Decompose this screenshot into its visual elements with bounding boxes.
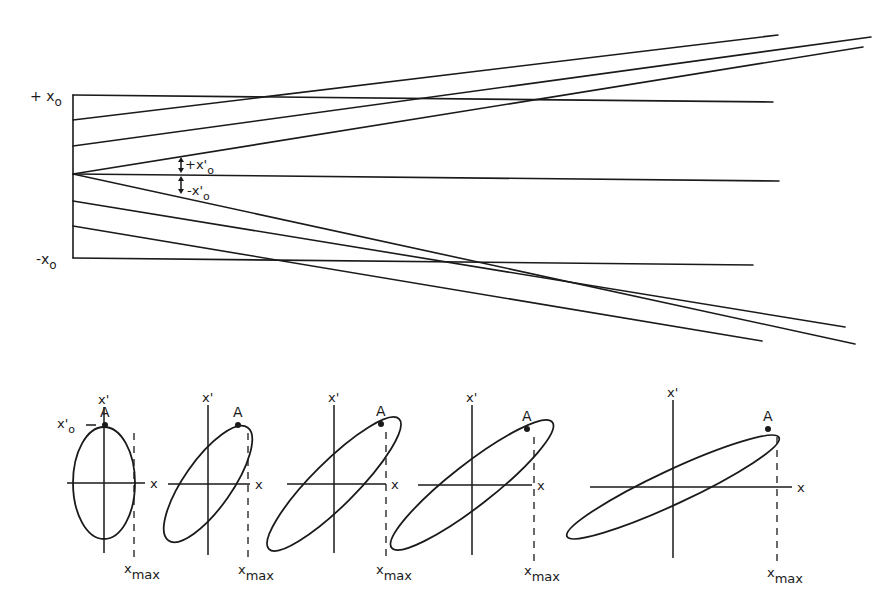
panel-4: Axx'xmax bbox=[379, 390, 566, 584]
xprime-axis-label: x' bbox=[466, 390, 477, 405]
x-axis-label: x bbox=[150, 476, 158, 491]
panel-5: Axx'xmax bbox=[560, 385, 805, 586]
xmax-label: xmax bbox=[376, 562, 412, 583]
ray-lower-1 bbox=[73, 226, 762, 341]
x-axis-label: x bbox=[391, 477, 399, 492]
xmax-label: xmax bbox=[767, 565, 803, 586]
plus-xprime0-label: +x'o bbox=[185, 157, 214, 177]
point-a-dot-icon bbox=[235, 422, 241, 428]
panel-2: Axx'xmax bbox=[149, 390, 275, 583]
point-a-label: A bbox=[376, 403, 386, 419]
xmax-label: xmax bbox=[124, 561, 160, 582]
x-axis-label: x bbox=[255, 477, 263, 492]
point-a-label: A bbox=[522, 408, 532, 424]
plus-x0-label: + xo bbox=[30, 88, 62, 109]
minus-x0-horizontal bbox=[73, 258, 753, 265]
ray-upper-2 bbox=[73, 37, 871, 146]
xmax-label: xmax bbox=[238, 562, 274, 583]
phase-space-figure: + xo -xo +x'o -x'o Axx'xmaxx'oAxx'xmaxAx… bbox=[0, 0, 890, 592]
point-a-dot-icon bbox=[102, 422, 108, 428]
point-a-dot-icon bbox=[765, 426, 771, 432]
plus-xprime0-arrow-icon bbox=[178, 157, 184, 173]
panel-1: Axx'xmaxx'o bbox=[57, 392, 160, 582]
point-a-dot-icon bbox=[378, 421, 384, 427]
point-a-dot-icon bbox=[524, 426, 530, 432]
ray-upper-3 bbox=[73, 47, 863, 174]
x-axis-label: x bbox=[537, 478, 545, 493]
beam-envelope-diagram: + xo -xo +x'o -x'o bbox=[30, 35, 871, 344]
x-axis-label: x bbox=[797, 480, 805, 495]
point-a-label: A bbox=[233, 404, 243, 420]
xprime-axis-label: x' bbox=[202, 390, 213, 405]
minus-x0-label: -xo bbox=[36, 251, 57, 272]
xprime0-label: x'o bbox=[57, 416, 75, 436]
minus-xprime0-arrow-icon bbox=[178, 176, 184, 194]
xprime-axis-label: x' bbox=[98, 392, 109, 407]
point-a-label: A bbox=[763, 408, 773, 424]
xmax-label: xmax bbox=[524, 563, 560, 584]
phase-ellipse-panels: Axx'xmaxx'oAxx'xmaxAxx'xmaxAxx'xmaxAxx'x… bbox=[57, 385, 805, 586]
xprime-axis-label: x' bbox=[667, 385, 678, 400]
panel-3: Axx'xmax bbox=[253, 390, 414, 583]
xprime-axis-label: x' bbox=[328, 390, 339, 405]
